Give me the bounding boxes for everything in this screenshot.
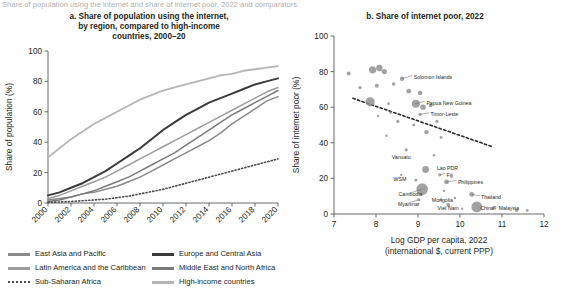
y-axis-label-b: Share of internet poor (%) (291, 77, 301, 174)
scatter-point-label: Solomon Islands (414, 74, 453, 80)
scatter-point-label: Vanuatu (392, 154, 411, 160)
legend-swatch-icon (152, 253, 174, 256)
legend-swatch-icon (152, 267, 174, 270)
legend-item-label: Latin America and the Caribbean (35, 263, 146, 273)
x-tick-label-a: 2014 (191, 204, 211, 224)
scatter-bubble (376, 65, 382, 71)
scatter-bubble (412, 100, 420, 108)
legend-item-label: East Asia and Pacific (35, 249, 106, 259)
scatter-bubble (400, 77, 404, 81)
x-tick-label-a: 2002 (53, 204, 73, 224)
legend-item[interactable]: Sub-Saharan Africa (8, 275, 158, 289)
scatter-point-label: Philippines (458, 179, 483, 185)
x-axis-label-b: (international $, current PPP) (385, 246, 493, 256)
scatter-bubble (382, 69, 387, 74)
legend-item[interactable]: Europe and Central Asia (152, 247, 294, 261)
x-tick-label-a: 2016 (214, 204, 234, 224)
scatter-point-label: Fiji (447, 172, 454, 178)
legend-item[interactable]: Middle East and North Africa (152, 261, 294, 275)
scatter-point-label: Mongolia (432, 197, 453, 203)
y-axis-label-a: Share of population (%) (4, 82, 14, 170)
scatter-point-label: Papua New Guinea (426, 100, 471, 106)
y-tick-label-a: 60 (33, 107, 43, 116)
y-tick-label-b: 60 (319, 103, 329, 112)
scatter-bubble (461, 208, 463, 210)
scatter-point-label: Malaysia (499, 205, 520, 211)
scatter-bubble (412, 124, 415, 127)
clipped-figure-header: Share of population using the internet a… (2, 0, 558, 9)
panel-a-title-line: by region, compared to high-income (34, 22, 264, 32)
scatter-point-label: Timor-Leste (431, 111, 459, 117)
y-tick-label-b: 80 (319, 68, 329, 77)
x-tick-label-a: 2006 (99, 204, 119, 224)
panel-b: b. Share of internet poor, 2022 02040608… (288, 9, 562, 293)
panel-a-title: a. Share of population using the interne… (0, 9, 290, 43)
legend-item-label: Middle East and North Africa (179, 263, 275, 273)
scatter-point-label: Myanmar (398, 201, 420, 207)
legend-column-left: East Asia and PacificLatin America and t… (8, 247, 158, 289)
scatter-bubble (440, 136, 443, 139)
chart-legend: East Asia and PacificLatin America and t… (4, 247, 290, 293)
x-tick-label-b: 10 (455, 220, 465, 229)
scatter-bubble (424, 130, 428, 134)
legend-item-label: Europe and Central Asia (179, 249, 261, 259)
y-tick-label-b: 0 (323, 210, 328, 219)
legend-item[interactable]: East Asia and Pacific (8, 247, 158, 261)
scatter-bubble (418, 91, 422, 95)
scatter-bubble (405, 149, 408, 152)
y-tick-label-a: 80 (33, 77, 43, 86)
legend-item[interactable]: Latin America and the Caribbean (8, 261, 158, 275)
x-tick-label-b: 7 (332, 220, 337, 229)
scatter-bubble (385, 135, 387, 137)
scatter-bubble (406, 89, 411, 94)
x-tick-label-b: 8 (374, 220, 379, 229)
scatter-point-label: Lao PDR (437, 165, 458, 171)
legend-item-label: High-income countries (179, 277, 255, 287)
scatter-point-label: Viet Nam (438, 205, 459, 211)
scatter-bubble (377, 115, 379, 117)
x-tick-label-b: 12 (539, 220, 549, 229)
scatter-bubble (435, 120, 438, 123)
legend-item[interactable]: High-income countries (152, 275, 294, 289)
x-tick-label-a: 2004 (76, 204, 96, 224)
scatter-point-label: WSM (394, 176, 407, 182)
scatter-bubble (347, 72, 351, 76)
x-tick-label-a: 2018 (237, 204, 257, 224)
x-tick-label-a: 2000 (30, 204, 50, 224)
y-tick-label-b: 40 (319, 139, 329, 148)
x-axis-label-b: Log GDP per capita, 2022 (391, 235, 488, 245)
label-leader-line (402, 76, 412, 79)
scatter-bubble (387, 102, 390, 105)
scatter-bubble (392, 82, 396, 86)
x-tick-label-a: 2020 (260, 204, 280, 224)
scatter-bubble (366, 97, 375, 106)
x-tick-label-b: 9 (416, 220, 421, 229)
y-tick-label-a: 100 (28, 47, 42, 56)
panel-a-title-line: a. Share of population using the interne… (34, 12, 264, 22)
scatter-bubble (415, 179, 418, 182)
scatter-bubble (443, 190, 445, 192)
series-line-a (48, 66, 278, 157)
figure-panels: a. Share of population using the interne… (0, 9, 562, 293)
x-tick-label-a: 2008 (122, 204, 142, 224)
panel-b-title: b. Share of internet poor, 2022 (288, 9, 562, 22)
scatter-bubble (389, 111, 392, 114)
scatter-bubble (526, 209, 529, 212)
scatter-bubble (375, 84, 379, 88)
x-tick-label-a: 2012 (168, 204, 188, 224)
y-tick-label-a: 20 (33, 168, 43, 177)
legend-column-right: Europe and Central AsiaMiddle East and N… (152, 247, 294, 289)
legend-swatch-icon (8, 253, 30, 256)
scatter-bubble (433, 154, 435, 156)
x-tick-label-a: 2010 (145, 204, 165, 224)
scatter-bubble (422, 166, 429, 173)
scatter-bubble (420, 105, 426, 111)
series-line-a (48, 87, 278, 198)
y-tick-label-b: 20 (319, 175, 329, 184)
line-chart-a: 0204060801002000200220042006200820102012… (0, 43, 290, 275)
y-tick-label-b: 100 (314, 32, 328, 41)
scatter-bubble (454, 197, 456, 199)
scatter-bubble (358, 86, 361, 89)
series-line-a (48, 96, 278, 199)
scatter-chart-b: 020406080100789101112Share of internet p… (288, 22, 562, 272)
